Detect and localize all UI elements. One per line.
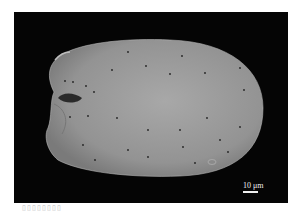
scale-bar-label: 10 μm <box>243 181 264 190</box>
caption-text: ▯▯▯▯▯▯▯▯ <box>22 204 62 212</box>
scale-bar <box>243 191 258 193</box>
